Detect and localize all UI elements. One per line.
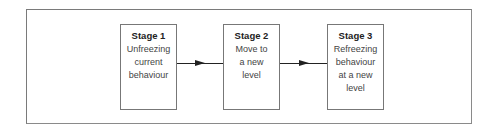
stage-2-line-2: a new [224,56,279,69]
stage-3-description: Refreezing behaviour at a new level [328,43,383,95]
arrowhead-icon [299,60,309,66]
stage-2-description: Move to a new level [224,43,279,82]
stage-1-box: Stage 1 Unfreezing current behaviour [120,24,177,110]
stage-3-line-1: Refreezing [328,43,383,56]
stage-3-line-2: behaviour [328,56,383,69]
stage-1-line-3: behaviour [121,69,176,82]
stage-2-line-3: level [224,69,279,82]
arrow-stage-1-to-2 [177,63,223,64]
stage-3-line-4: level [328,82,383,95]
stage-1-line-1: Unfreezing [121,43,176,56]
stage-2-box: Stage 2 Move to a new level [223,24,280,110]
stage-3-line-3: at a new [328,69,383,82]
arrowhead-icon [195,60,205,66]
arrow-stage-2-to-3 [280,63,327,64]
stage-1-line-2: current [121,56,176,69]
stage-2-title: Stage 2 [224,30,279,42]
stage-3-title: Stage 3 [328,30,383,42]
stage-1-title: Stage 1 [121,30,176,42]
stage-1-description: Unfreezing current behaviour [121,43,176,82]
stage-2-line-1: Move to [224,43,279,56]
stage-3-box: Stage 3 Refreezing behaviour at a new le… [327,24,384,110]
